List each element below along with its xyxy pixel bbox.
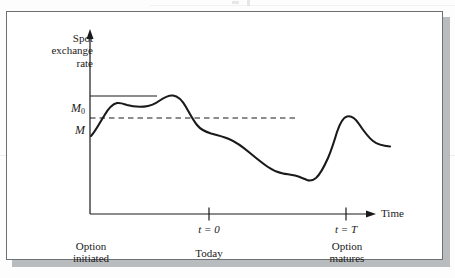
tick-label-t-zero: t = 0 xyxy=(179,223,239,235)
x-axis xyxy=(90,210,376,217)
y-value-m-main: M xyxy=(75,123,85,137)
scan-artifact-speck xyxy=(150,5,455,6)
scan-artifact-speck xyxy=(232,1,239,4)
figure-frame: Spot exchange rate M0 M Time t = 0 t = T… xyxy=(6,11,443,260)
spot-rate-curve xyxy=(91,95,390,180)
caption-option-initiated: Option initiated xyxy=(60,240,122,265)
y-axis-label: Spot exchange rate xyxy=(25,32,93,69)
figure-page: Spot exchange rate M0 M Time t = 0 t = T… xyxy=(0,0,455,278)
x-axis-label: Time xyxy=(381,207,404,219)
caption-today: Today xyxy=(179,247,239,259)
caption-option-matures: Option matures xyxy=(316,240,378,265)
tick-label-t-maturity: t = T xyxy=(316,223,376,235)
y-value-m: M xyxy=(35,111,85,151)
